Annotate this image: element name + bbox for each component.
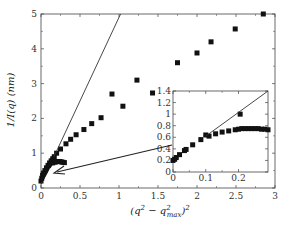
x-tick-label: 2 (194, 191, 200, 201)
x-tick-label: 0.2 (231, 173, 245, 183)
x-tick-label: 0.5 (73, 191, 88, 201)
data-point (109, 92, 114, 97)
data-point (134, 78, 139, 83)
x-tick-label: 0.1 (199, 173, 213, 183)
data-point (213, 131, 218, 136)
data-point (198, 137, 203, 142)
data-point (190, 142, 195, 147)
data-point (195, 50, 200, 55)
x-tick-label: 0 (38, 191, 44, 201)
data-point (233, 26, 238, 31)
x-tick-label: 2.5 (229, 191, 244, 201)
data-point (209, 39, 214, 44)
data-point (74, 132, 79, 137)
data-point (81, 127, 86, 132)
data-point (184, 147, 189, 152)
data-point (226, 128, 231, 133)
data-point (220, 130, 225, 135)
y-tick-label: 0 (31, 183, 37, 193)
data-point (120, 104, 125, 109)
x-tick-label: 3 (272, 191, 278, 201)
data-point (89, 121, 94, 126)
data-point (207, 134, 212, 139)
y-tick-label: 0.6 (157, 132, 172, 142)
y-tick-label: 5 (31, 9, 37, 19)
data-point (150, 90, 155, 95)
y-tick-label: 1.4 (157, 86, 172, 96)
data-point (175, 60, 180, 65)
y-tick-label: 1 (31, 148, 37, 158)
y-axis-title: 1/I(q) (nm) (5, 73, 16, 128)
y-tick-label: 3 (31, 79, 37, 89)
data-point (177, 152, 182, 157)
x-tick-label: 0 (170, 173, 176, 183)
arrow-annotation (54, 145, 172, 174)
y-tick-label: 4 (31, 44, 37, 54)
x-tick-label: 1 (116, 191, 122, 201)
y-tick-label: 0.8 (157, 121, 172, 131)
y-tick-label: 0.2 (157, 155, 171, 165)
y-tick-label: 0 (165, 167, 171, 177)
data-point (63, 141, 68, 146)
y-tick-label: 1 (165, 109, 171, 119)
inset-axes: 00.10.200.20.40.60.811.21.4 (157, 86, 268, 183)
x-axis-title: (q2 − q2max)2 (130, 204, 190, 219)
data-point (68, 137, 73, 142)
data-point (261, 12, 266, 17)
data-point (99, 115, 104, 120)
data-point (266, 127, 271, 132)
y-tick-label: 1.2 (157, 98, 171, 108)
y-tick-label: 2 (31, 113, 37, 123)
x-tick-label: 1.5 (151, 191, 166, 201)
chart: 00.511.522.53012345 00.10.200.20.40.60.8… (0, 0, 291, 226)
arrow-line (57, 145, 172, 172)
